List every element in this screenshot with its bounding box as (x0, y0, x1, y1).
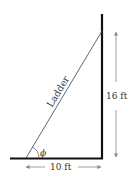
ladder-line (26, 31, 102, 158)
height-label: 16 ft (106, 91, 128, 101)
ladder-label: Ladder (44, 74, 71, 109)
ladder-diagram: ϕ Ladder 16 ft 10 ft (0, 0, 133, 186)
angle-label: ϕ (40, 148, 46, 158)
base-label: 10 ft (50, 162, 72, 172)
angle-arc (33, 147, 39, 158)
